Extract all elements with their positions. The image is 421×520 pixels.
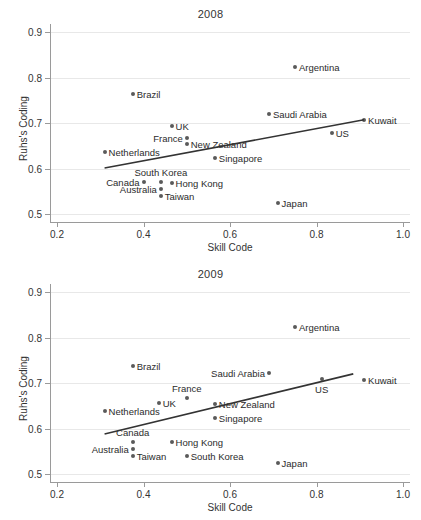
x-tick-mark <box>144 222 145 227</box>
data-point <box>159 194 163 198</box>
x-tick-label: 0.8 <box>297 489 337 500</box>
data-point-label: Canada <box>116 427 149 438</box>
data-point <box>293 325 297 329</box>
x-tick-label: 1.0 <box>383 489 421 500</box>
y-axis-line <box>50 24 51 222</box>
data-point <box>131 454 135 458</box>
data-point-label: France <box>172 382 202 393</box>
data-point-label: Brazil <box>137 89 161 100</box>
data-point-label: New Zealand <box>191 139 247 150</box>
x-axis-title-2009: Skill Code <box>50 502 410 513</box>
data-point <box>185 142 189 146</box>
data-point <box>362 118 366 122</box>
data-point <box>185 136 189 140</box>
x-tick-mark <box>230 482 231 487</box>
data-point <box>131 447 135 451</box>
data-point-label: Singapore <box>219 153 262 164</box>
plot-area-2009: 0.50.60.70.80.90.20.40.60.81.0ArgentinaB… <box>0 260 421 520</box>
gridline <box>50 292 410 293</box>
gridline <box>50 78 410 79</box>
x-tick-mark <box>403 482 404 487</box>
data-point-label: Australia <box>92 443 129 454</box>
data-point-label: UK <box>176 120 189 131</box>
x-tick-label: 0.4 <box>124 489 164 500</box>
data-point <box>159 187 163 191</box>
data-point-label: Hong Kong <box>176 437 224 448</box>
x-tick-label: 0.8 <box>297 229 337 240</box>
data-point-label: Argentina <box>299 62 340 73</box>
data-point <box>213 402 217 406</box>
y-tick-label: 0.5 <box>14 469 42 480</box>
y-axis-title-2009: Ruhs's Coding <box>18 319 29 459</box>
data-point-label: Netherlands <box>109 146 160 157</box>
x-tick-label: 0.2 <box>37 229 77 240</box>
data-point <box>267 112 271 116</box>
data-point-label: Japan <box>282 198 308 209</box>
data-point <box>267 371 271 375</box>
data-point-label: Kuwait <box>368 114 397 125</box>
data-point-label: Netherlands <box>109 405 160 416</box>
data-point <box>276 461 280 465</box>
data-point <box>185 396 189 400</box>
y-tick-label: 0.9 <box>14 287 42 298</box>
data-point <box>103 150 107 154</box>
x-tick-label: 0.6 <box>210 489 250 500</box>
data-point <box>320 377 324 381</box>
data-point <box>293 65 297 69</box>
data-point <box>170 440 174 444</box>
data-point-label: Saudi Arabia <box>273 108 327 119</box>
data-point <box>330 131 334 135</box>
data-point-label: Singapore <box>219 413 262 424</box>
x-tick-mark <box>403 222 404 227</box>
data-point-label: Hong Kong <box>176 178 224 189</box>
x-tick-label: 0.4 <box>124 229 164 240</box>
data-point-label: Saudi Arabia <box>211 367 265 378</box>
data-point-label: New Zealand <box>219 399 275 410</box>
x-tick-mark <box>57 482 58 487</box>
y-axis-title-2008: Ruhs's Coding <box>18 59 29 199</box>
y-axis-line <box>50 284 51 482</box>
data-point-label: Taiwan <box>137 451 167 462</box>
gridline <box>50 383 410 384</box>
x-tick-mark <box>230 222 231 227</box>
data-point <box>276 201 280 205</box>
data-point-label: South Korea <box>191 451 244 462</box>
data-point <box>170 124 174 128</box>
x-tick-mark <box>144 482 145 487</box>
x-tick-label: 0.2 <box>37 489 77 500</box>
data-point <box>185 454 189 458</box>
x-tick-mark <box>317 222 318 227</box>
data-point <box>213 416 217 420</box>
data-point-label: Australia <box>120 183 157 194</box>
data-point <box>131 440 135 444</box>
data-point <box>131 364 135 368</box>
data-point <box>131 92 135 96</box>
gridline <box>50 214 410 215</box>
gridline <box>50 429 410 430</box>
data-point <box>362 378 366 382</box>
x-tick-label: 0.6 <box>210 229 250 240</box>
data-point-label: Taiwan <box>165 191 195 202</box>
data-point-label: Kuwait <box>368 374 397 385</box>
data-point <box>103 409 107 413</box>
data-point <box>170 181 174 185</box>
scatter-plot-figure: 2008 0.50.60.70.80.90.20.40.60.81.0Argen… <box>0 0 421 520</box>
gridline <box>50 32 410 33</box>
x-axis-title-2008: Skill Code <box>50 242 410 253</box>
gridline <box>50 169 410 170</box>
gridline <box>50 474 410 475</box>
y-tick-label: 0.9 <box>14 27 42 38</box>
data-point <box>159 180 163 184</box>
data-point-label: France <box>153 132 183 143</box>
data-point-label: Argentina <box>299 322 340 333</box>
plot-area-2008: 0.50.60.70.80.90.20.40.60.81.0ArgentinaB… <box>0 0 421 260</box>
data-point-label: UK <box>163 398 176 409</box>
x-tick-label: 1.0 <box>383 229 421 240</box>
chart-panel-2008: 2008 0.50.60.70.80.90.20.40.60.81.0Argen… <box>0 0 421 260</box>
data-point-label: South Korea <box>134 167 187 178</box>
data-point-label: Brazil <box>137 361 161 372</box>
data-point-label: US <box>336 127 349 138</box>
data-point-label: US <box>315 383 328 394</box>
gridline <box>50 123 410 124</box>
data-point <box>213 156 217 160</box>
